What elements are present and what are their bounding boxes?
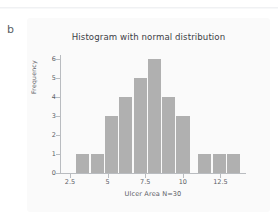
y-tick-label: 0: [38, 170, 56, 177]
x-tick-label: 10: [168, 179, 198, 186]
y-tick-label: 2: [38, 132, 56, 139]
y-tick-mark: [56, 135, 60, 136]
histogram-bar: [176, 116, 189, 173]
y-tick-label: 4: [38, 94, 56, 101]
x-axis-line: [60, 173, 246, 174]
y-tick-mark: [56, 97, 60, 98]
histogram-bar: [105, 116, 118, 173]
histogram-bar: [227, 154, 240, 173]
panel-letter-label: b: [7, 24, 14, 35]
histogram-bar: [134, 78, 147, 173]
histogram-bar: [91, 154, 104, 173]
y-tick-mark: [56, 116, 60, 117]
x-tick-label: 5: [93, 179, 123, 186]
top-divider-shadow: [0, 8, 278, 9]
x-tick-label: 2.5: [55, 179, 85, 186]
histogram-bar: [119, 97, 132, 173]
histogram-bar: [162, 97, 175, 173]
y-tick-label: 3: [38, 113, 56, 120]
x-tick-label: 12.5: [205, 179, 235, 186]
y-tick-label: 6: [38, 56, 56, 63]
x-tick-label: 7.5: [130, 179, 160, 186]
y-tick-mark: [56, 173, 60, 174]
chart-title: Histogram with normal distribution: [27, 32, 270, 42]
y-tick-mark: [56, 59, 60, 60]
histogram-bar: [213, 154, 226, 173]
y-tick-mark: [56, 78, 60, 79]
page-root: b Histogram with normal distribution Fre…: [0, 0, 278, 218]
histogram-bar: [76, 154, 89, 173]
x-axis-label: Ulcer Area N=30: [60, 190, 246, 198]
y-tick-label: 5: [38, 75, 56, 82]
histogram-bars: [61, 55, 246, 173]
histogram-bar: [198, 154, 211, 173]
y-tick-label: 1: [38, 151, 56, 158]
y-tick-mark: [56, 154, 60, 155]
histogram-bar: [148, 59, 161, 173]
y-axis-label: Frequency: [30, 60, 37, 94]
